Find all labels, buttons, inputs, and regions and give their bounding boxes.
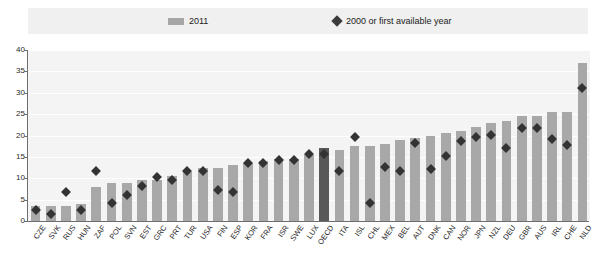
- y-axis-tick: [24, 157, 28, 158]
- x-axis-tick-label: AUT: [412, 224, 427, 241]
- data-point-marker: [517, 123, 527, 133]
- x-axis-tick-label: USA: [199, 224, 214, 241]
- x-axis-tick-label: MEX: [381, 224, 396, 242]
- bar-swatch-icon: [168, 18, 184, 25]
- x-axis-tick-label: RUS: [62, 224, 77, 241]
- x-axis-tick-label: BEL: [397, 224, 411, 240]
- x-axis-tick-label: TUR: [184, 224, 199, 241]
- x-axis-tick-label: GRC: [153, 224, 169, 242]
- x-axis-tick-label: POL: [108, 224, 123, 241]
- data-point-marker: [471, 132, 481, 142]
- x-axis-tick-label: PRT: [169, 224, 184, 240]
- data-point-marker: [228, 187, 238, 197]
- x-axis-tick-label: ISL: [353, 224, 366, 238]
- x-axis-tick-label: AUS: [533, 224, 548, 241]
- data-point-marker: [91, 166, 101, 176]
- legend-item-2000: 2000 or first available year: [333, 8, 452, 34]
- data-point-marker: [137, 181, 147, 191]
- data-point-marker: [486, 130, 496, 140]
- y-axis-tick-label: 10: [1, 174, 25, 182]
- data-point-marker: [167, 175, 177, 185]
- data-point-marker: [304, 149, 314, 159]
- data-point-marker: [334, 166, 344, 176]
- x-axis-labels: CZESVKRUSHUNZAFPOLSVNESTGRCPRTTURUSAFINE…: [28, 224, 590, 261]
- x-axis-tick-label: NOR: [456, 224, 472, 242]
- data-point-marker: [122, 190, 132, 200]
- y-axis-tick: [24, 136, 28, 137]
- data-point-marker: [107, 198, 117, 208]
- x-axis-tick-label: FIN: [216, 224, 229, 238]
- x-axis-tick-label: GBR: [517, 224, 532, 242]
- x-axis-tick-label: DEU: [502, 224, 517, 241]
- x-axis-tick-label: FRA: [260, 224, 275, 241]
- data-point-marker: [319, 149, 329, 159]
- data-point-marker: [532, 123, 542, 133]
- y-axis-tick-label: 15: [1, 153, 25, 161]
- x-axis-tick-label: KOR: [244, 224, 259, 242]
- data-point-marker: [152, 173, 162, 183]
- y-axis-tick: [24, 178, 28, 179]
- data-point-marker: [274, 155, 284, 165]
- data-point-marker: [547, 134, 557, 144]
- data-point-marker: [243, 158, 253, 168]
- data-point-marker: [410, 138, 420, 148]
- y-axis-tick: [24, 221, 28, 222]
- data-point-marker: [456, 136, 466, 146]
- legend-label: 2011: [189, 17, 208, 26]
- data-point-marker: [61, 187, 71, 197]
- data-point-marker: [426, 164, 436, 174]
- diamond-icon: [331, 15, 342, 26]
- data-point-marker: [76, 205, 86, 215]
- x-axis-tick-label: CAN: [442, 224, 457, 241]
- y-axis-tick: [24, 71, 28, 72]
- data-point-marker: [183, 166, 193, 176]
- y-axis-tick: [24, 93, 28, 94]
- y-axis-tick: [24, 50, 28, 51]
- x-axis-tick-label: SWE: [289, 224, 305, 242]
- data-point-marker: [562, 140, 572, 150]
- y-axis-tick: [24, 114, 28, 115]
- plot-wrapper: 0510152025303540: [0, 44, 601, 224]
- y-axis-tick-label: 5: [1, 196, 25, 204]
- plot-area: [28, 50, 590, 221]
- legend-item-2011: 2011: [168, 8, 208, 34]
- data-point-marker: [31, 205, 41, 215]
- chart-root: 2011 2000 or first available year 051015…: [0, 0, 601, 261]
- x-axis-tick-label: JPN: [473, 224, 487, 240]
- x-axis-tick-label: ESP: [229, 224, 244, 241]
- chart-legend: 2011 2000 or first available year: [28, 8, 588, 34]
- x-axis-tick-label: ITA: [338, 224, 351, 237]
- y-axis-labels: 0510152025303540: [0, 44, 25, 224]
- x-axis-tick-label: CZE: [32, 224, 47, 241]
- x-axis-tick-label: CHE: [563, 224, 578, 241]
- y-axis-tick-label: 30: [1, 89, 25, 97]
- data-point-marker: [577, 83, 587, 93]
- data-point-marker: [198, 166, 208, 176]
- y-axis-tick: [24, 200, 28, 201]
- data-point-marker: [380, 162, 390, 172]
- x-axis-tick-label: SVK: [47, 224, 62, 241]
- data-point-marker: [289, 155, 299, 165]
- data-point-marker: [365, 198, 375, 208]
- x-axis-tick-label: EST: [139, 224, 154, 240]
- data-point-marker: [258, 158, 268, 168]
- y-axis-tick-label: 0: [1, 217, 25, 225]
- y-axis-tick-label: 35: [1, 67, 25, 75]
- x-axis-tick-label: ZAF: [93, 224, 107, 240]
- data-point-marker: [46, 209, 56, 219]
- legend-label: 2000 or first available year: [346, 17, 452, 26]
- x-axis-tick-label: DNK: [426, 224, 441, 241]
- data-point-marker: [441, 151, 451, 161]
- data-point-marker: [350, 132, 360, 142]
- x-axis-tick-label: NLD: [579, 224, 594, 241]
- y-axis-tick-label: 25: [1, 110, 25, 118]
- data-point-marker: [395, 166, 405, 176]
- marker-series: [28, 50, 590, 221]
- y-axis-tick-label: 20: [1, 132, 25, 140]
- x-axis-tick-label: SVN: [123, 224, 138, 241]
- x-axis-tick-label: NZL: [488, 224, 502, 240]
- data-point-marker: [502, 143, 512, 153]
- y-axis-tick-label: 40: [1, 46, 25, 54]
- data-point-marker: [213, 185, 223, 195]
- x-axis-tick-label: HUN: [77, 224, 92, 242]
